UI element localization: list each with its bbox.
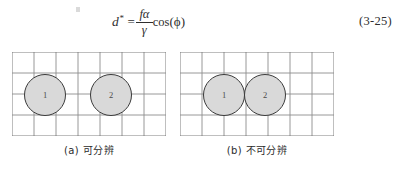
equation-number: (3-25) — [359, 14, 392, 29]
panel-a-circle-label: 2 — [109, 90, 113, 100]
equation-lhs-variable: d — [112, 14, 119, 30]
panel-b-circle-label: 1 — [222, 90, 226, 100]
panel-a-grid: 12 — [12, 52, 166, 136]
panel-b-circle-1: 1 — [203, 74, 245, 116]
panel-a-caption: (a) 可分辨 — [12, 142, 166, 157]
figure-panel-a: 12 (a) 可分辨 — [12, 52, 166, 136]
equation-close-paren: ) — [181, 14, 185, 30]
scan-artifact-speck — [76, 7, 80, 12]
display-equation: d* = fα γ cos(ϕ) — [112, 8, 185, 36]
equation-fraction-denominator: γ — [141, 23, 148, 37]
panel-b-circles: 12 — [180, 52, 334, 136]
equation-fraction: fα γ — [136, 8, 153, 36]
equation-cos-function: cos — [153, 15, 170, 30]
panel-a-circle-label: 1 — [43, 90, 47, 100]
equation-equals-sign: = — [127, 14, 134, 30]
panel-b-circle-label: 2 — [263, 90, 267, 100]
panel-a-circle-1: 1 — [24, 74, 66, 116]
equation-fraction-numerator: fα — [138, 8, 150, 22]
equation-lhs-superscript: * — [119, 13, 124, 23]
figure-panel-b: 12 (b) 不可分辨 — [180, 52, 334, 136]
equation-row: d* = fα γ cos(ϕ) (3-25) — [0, 6, 400, 42]
panel-b-grid: 12 — [180, 52, 334, 136]
panel-a-circles: 12 — [12, 52, 166, 136]
panel-b-caption: (b) 不可分辨 — [180, 142, 334, 157]
figure-area: 12 (a) 可分辨 12 (b) 不可分辨 — [0, 52, 400, 152]
equation-angle-symbol: ϕ — [174, 14, 181, 30]
panel-a-circle-2: 2 — [90, 74, 132, 116]
panel-b-circle-2: 2 — [244, 74, 286, 116]
